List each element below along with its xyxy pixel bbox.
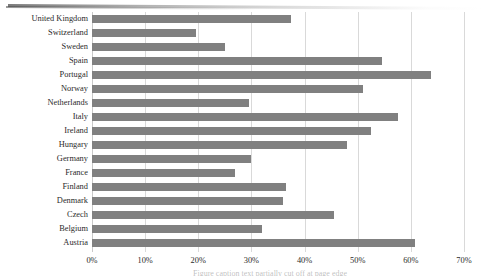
bar-ireland [92, 127, 371, 135]
category-label-hungary: Hungary [0, 138, 88, 152]
xtick-label-70: 70% [456, 254, 471, 268]
bar-row [92, 26, 464, 40]
bar-united-kingdom [92, 15, 291, 23]
category-label-finland: Finland [0, 180, 88, 194]
bar-row [92, 138, 464, 152]
bar-belgium [92, 225, 262, 233]
bar-row [92, 110, 464, 124]
category-label-united-kingdom: United Kingdom [0, 12, 88, 26]
gridline-70 [464, 12, 465, 252]
xtick-label-50: 50% [350, 254, 365, 268]
category-label-france: France [0, 166, 88, 180]
bar-row [92, 152, 464, 166]
category-label-denmark: Denmark [0, 194, 88, 208]
plot-area [92, 12, 464, 252]
bar-row [92, 236, 464, 250]
xtick-label-40: 40% [297, 254, 312, 268]
bar-row [92, 12, 464, 26]
category-label-ireland: Ireland [0, 124, 88, 138]
bar-row [92, 124, 464, 138]
xtick-label-0: 0% [86, 254, 97, 268]
bar-czech [92, 211, 334, 219]
bar-finland [92, 183, 286, 191]
scan-artifact-line [8, 4, 482, 10]
bar-switzerland [92, 29, 196, 37]
xtick-label-10: 10% [137, 254, 152, 268]
category-label-portugal: Portugal [0, 68, 88, 82]
category-label-austria: Austria [0, 236, 88, 250]
category-label-belgium: Belgium [0, 222, 88, 236]
xtick-label-20: 20% [191, 254, 206, 268]
category-label-spain: Spain [0, 54, 88, 68]
category-label-netherlands: Netherlands [0, 96, 88, 110]
bar-italy [92, 113, 398, 121]
bar-row [92, 54, 464, 68]
bar-denmark [92, 197, 283, 205]
category-label-switzerland: Switzerland [0, 26, 88, 40]
bar-row [92, 82, 464, 96]
category-axis-labels: United KingdomSwitzerlandSwedenSpainPort… [0, 12, 88, 252]
bar-netherlands [92, 99, 249, 107]
category-label-norway: Norway [0, 82, 88, 96]
category-label-sweden: Sweden [0, 40, 88, 54]
bar-hungary [92, 141, 347, 149]
bar-austria [92, 239, 415, 247]
category-label-italy: Italy [0, 110, 88, 124]
category-label-czech: Czech [0, 208, 88, 222]
bar-spain [92, 57, 382, 65]
bar-row [92, 166, 464, 180]
xtick-label-60: 60% [403, 254, 418, 268]
category-label-germany: Germany [0, 152, 88, 166]
bar-france [92, 169, 235, 177]
scan-artifact-line-secondary [6, 6, 256, 10]
xtick-label-30: 30% [244, 254, 259, 268]
bottom-caption: Figure caption text partially cut off at… [120, 269, 420, 276]
bar-row [92, 180, 464, 194]
bar-portugal [92, 71, 431, 79]
bar-germany [92, 155, 251, 163]
bar-row [92, 222, 464, 236]
value-axis-labels: 0%10%20%30%40%50%60%70% [92, 254, 464, 268]
bar-series [92, 12, 464, 252]
bar-row [92, 40, 464, 54]
bar-chart: United KingdomSwitzerlandSwedenSpainPort… [0, 0, 490, 276]
bar-norway [92, 85, 363, 93]
bar-sweden [92, 43, 225, 51]
bar-row [92, 96, 464, 110]
bar-row [92, 68, 464, 82]
bar-row [92, 194, 464, 208]
bar-row [92, 208, 464, 222]
